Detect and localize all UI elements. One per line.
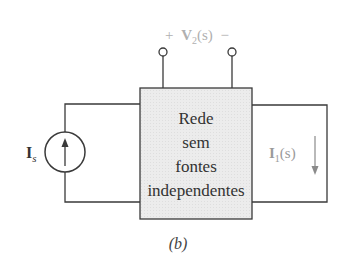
voltage-arg: (s) — [197, 27, 213, 44]
voltage-symbol: V — [181, 27, 192, 43]
network-line-1: Rede — [179, 109, 214, 128]
terminal-positive — [159, 48, 167, 88]
source-subscript: s — [32, 152, 36, 164]
terminal-negative — [228, 48, 236, 88]
current-label: I1(s) — [269, 145, 296, 164]
voltage-minus: − — [221, 27, 229, 43]
current-arrow-icon — [312, 136, 319, 175]
voltage-label: + V2(s) − — [165, 27, 229, 46]
voltage-plus: + — [165, 27, 173, 43]
current-arg: (s) — [280, 145, 296, 162]
circuit-diagram: + V2(s) − Is I1(s) — [0, 0, 344, 270]
source-label: Is — [26, 144, 37, 164]
network-line-3: fontes — [175, 157, 217, 176]
network-line-4: independentes — [147, 181, 244, 200]
network-line-2: sem — [182, 133, 209, 152]
figure-caption: (b) — [169, 235, 188, 253]
current-source — [45, 132, 85, 172]
